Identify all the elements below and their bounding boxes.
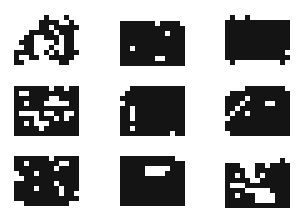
binary-pattern-p8 (120, 156, 185, 206)
binary-pattern-p3 (225, 15, 290, 65)
binary-pattern-p1 (14, 15, 79, 65)
binary-pattern-p7 (14, 156, 79, 206)
pattern-cell (74, 60, 79, 65)
pattern-cell (180, 61, 185, 66)
pattern-cell (180, 131, 185, 136)
binary-pattern-p2 (120, 16, 185, 66)
pattern-cell (285, 203, 290, 208)
binary-pattern-p6 (225, 86, 290, 136)
pattern-cell (74, 201, 79, 206)
pattern-cell (285, 131, 290, 136)
pattern-cell (180, 201, 185, 206)
binary-pattern-p4 (14, 86, 79, 136)
binary-pattern-p5 (120, 86, 185, 136)
binary-pattern-p9 (225, 158, 290, 208)
pattern-cell (285, 60, 290, 65)
pattern-cell (74, 131, 79, 136)
